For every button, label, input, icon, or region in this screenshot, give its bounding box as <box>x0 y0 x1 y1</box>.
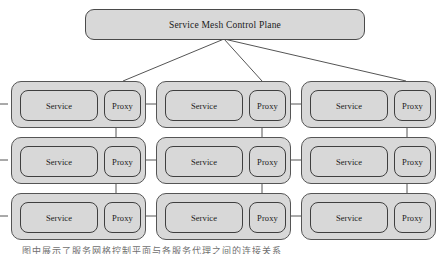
pod-r3c3-proxy-box[interactable]: Proxy <box>394 202 431 233</box>
pod-r2c2-proxy-label: Proxy <box>257 157 278 167</box>
pod-r2c3-service-box[interactable]: Service <box>310 146 388 177</box>
pod-r3c3[interactable]: Service Proxy <box>301 193 436 240</box>
pod-r1c1-proxy-label: Proxy <box>112 101 133 111</box>
pod-r1c2[interactable]: Service Proxy <box>156 81 291 128</box>
pod-r3c1-service-label: Service <box>46 213 72 223</box>
pod-r2c1-service-box[interactable]: Service <box>20 146 98 177</box>
pod-r3c3-service-label: Service <box>336 213 362 223</box>
pod-r1c2-proxy-label: Proxy <box>257 101 278 111</box>
pod-r1c3-proxy-box[interactable]: Proxy <box>394 90 431 121</box>
pod-r2c2-proxy-box[interactable]: Proxy <box>249 146 286 177</box>
control-plane-box[interactable]: Service Mesh Control Plane <box>85 9 365 40</box>
pod-r3c2[interactable]: Service Proxy <box>156 193 291 240</box>
pod-r1c1[interactable]: Service Proxy <box>11 81 146 128</box>
pod-r1c3-proxy-label: Proxy <box>402 101 423 111</box>
pod-r3c1-proxy-label: Proxy <box>112 213 133 223</box>
pod-r1c2-service-label: Service <box>191 101 217 111</box>
pod-r3c1[interactable]: Service Proxy <box>11 193 146 240</box>
pod-r2c1-proxy-label: Proxy <box>112 157 133 167</box>
service-mesh-diagram: Service Mesh Control Plane Service Proxy… <box>0 0 447 254</box>
pod-r2c1-service-label: Service <box>46 157 72 167</box>
pod-r3c2-service-box[interactable]: Service <box>165 202 243 233</box>
pod-r1c2-service-box[interactable]: Service <box>165 90 243 121</box>
pod-r2c1[interactable]: Service Proxy <box>11 137 146 184</box>
pod-r3c2-service-label: Service <box>191 213 217 223</box>
pod-r3c1-proxy-box[interactable]: Proxy <box>104 202 141 233</box>
pod-r1c1-service-box[interactable]: Service <box>20 90 98 121</box>
pod-r1c3[interactable]: Service Proxy <box>301 81 436 128</box>
pod-r3c2-proxy-box[interactable]: Proxy <box>249 202 286 233</box>
pod-r1c3-service-label: Service <box>336 101 362 111</box>
pod-r1c1-service-label: Service <box>46 101 72 111</box>
pod-r2c2-service-label: Service <box>191 157 217 167</box>
pod-r2c3-proxy-label: Proxy <box>402 157 423 167</box>
pod-r1c1-proxy-box[interactable]: Proxy <box>104 90 141 121</box>
figure-caption-text: 图中展示了服务网格控制平面与各服务代理之间的连接关系 <box>0 246 447 254</box>
control-plane-label: Service Mesh Control Plane <box>169 20 281 30</box>
pod-r2c3-service-label: Service <box>336 157 362 167</box>
pod-r2c3-proxy-box[interactable]: Proxy <box>394 146 431 177</box>
pod-r3c3-proxy-label: Proxy <box>402 213 423 223</box>
pod-r2c3[interactable]: Service Proxy <box>301 137 436 184</box>
wire-control-plane-to-r1c3-proxy <box>224 39 406 81</box>
pod-r2c2[interactable]: Service Proxy <box>156 137 291 184</box>
pod-r2c2-service-box[interactable]: Service <box>165 146 243 177</box>
pod-r2c1-proxy-box[interactable]: Proxy <box>104 146 141 177</box>
pod-r3c1-service-box[interactable]: Service <box>20 202 98 233</box>
wire-control-plane-to-r1c1-proxy <box>123 39 224 81</box>
pod-r1c3-service-box[interactable]: Service <box>310 90 388 121</box>
pod-r3c3-service-box[interactable]: Service <box>310 202 388 233</box>
figure-caption: 图中展示了服务网格控制平面与各服务代理之间的连接关系 <box>0 246 447 254</box>
wire-control-plane-to-r1c2-proxy <box>224 39 262 81</box>
pod-r3c2-proxy-label: Proxy <box>257 213 278 223</box>
pod-r1c2-proxy-box[interactable]: Proxy <box>249 90 286 121</box>
